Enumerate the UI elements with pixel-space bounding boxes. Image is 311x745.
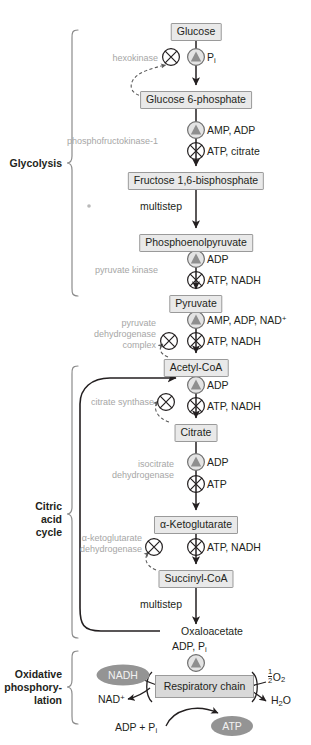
oxphos-adp-pi-subscript: i	[205, 645, 207, 654]
section-label-glycolysis-line-0: Glycolysis	[9, 157, 62, 169]
inhibition-symbol-hexokinase	[163, 49, 180, 66]
effector-label-adp-isocitrate-dh: ADP	[207, 457, 229, 468]
inhibition-symbol-citrate-synthase	[158, 394, 175, 411]
metabolite-succinyl-coa[interactable]: Succinyl-CoA	[158, 570, 233, 588]
multistep-label-citric-acid-cycle: multistep	[100, 599, 182, 610]
effector-label-pi: Pi	[207, 52, 216, 64]
enzyme-pyruvate-dehydrogenase-complex: pyruvate dehydrogenase complex	[30, 318, 156, 351]
metabolite-citrate[interactable]: Citrate	[175, 424, 218, 442]
effector-label-atp-nadh-akg-dh: ATP, NADH	[207, 542, 261, 553]
metabolite-fructose-1-6-bisphosphate[interactable]: Fructose 1,6-bisphosphate	[128, 172, 264, 190]
effector-label-adp-citrate-synthase: ADP	[207, 380, 229, 391]
cycle-loop-oxaloacetate-to-acetylcoa	[80, 378, 176, 631]
section-label-glycolysis: Glycolysis	[0, 157, 62, 170]
enzyme-citrate-synthase: citrate synthase	[30, 397, 154, 408]
activation-symbol-adp-isocitrate-dh	[188, 454, 205, 471]
brace-glycolysis	[67, 30, 78, 296]
activation-symbol-adp-citrate-synthase	[188, 377, 205, 394]
enzyme-hexokinase-line-0: hexokinase	[28, 53, 158, 64]
metabolite-alpha-ketoglutarate[interactable]: α-Ketoglutarate	[154, 516, 238, 534]
species-nad-text: NAD	[98, 693, 120, 705]
enzyme-akg-dh-line-1: dehydrogenase	[22, 544, 142, 555]
water-h: H	[271, 694, 279, 706]
respiratory-chain-box[interactable]: Respiratory chain	[155, 675, 254, 698]
effector-label-atp-nadh-pyruvate-kinase: ATP, NADH	[207, 275, 261, 286]
effector-label-atp-nadh-pdh: ATP, NADH	[207, 336, 261, 347]
section-label-oxphos-line-0: Oxidative	[0, 668, 62, 681]
decorative-dot	[87, 204, 91, 208]
brace-oxidative-phosphorylation	[67, 651, 78, 724]
oxygen-element: O	[273, 671, 281, 683]
inhibition-symbol-pdh-complex	[161, 333, 178, 350]
enzyme-isocitrate-dh-line-0: isocitrate	[40, 459, 174, 470]
effector-label-amp-adp: AMP, ADP	[207, 125, 255, 136]
enzyme-hexokinase: hexokinase	[28, 53, 158, 64]
oxygen-fraction-numerator: 1	[268, 668, 272, 676]
effector-pi-subscript: i	[214, 56, 216, 65]
enzyme-pdh-line-1: dehydrogenase	[30, 329, 156, 340]
enzyme-isocitrate-dehydrogenase: isocitrate dehydrogenase	[40, 459, 174, 481]
enzyme-akg-dh-line-0: α-ketoglutarate	[22, 533, 142, 544]
enzyme-isocitrate-dh-line-1: dehydrogenase	[40, 470, 174, 481]
oxygen-subscript: 2	[281, 675, 285, 684]
oxphos-adp-pi-label: ADP, Pi	[172, 641, 207, 653]
enzyme-alpha-ketoglutarate-dehydrogenase: α-ketoglutarate dehydrogenase	[22, 533, 142, 555]
diagram-artwork	[0, 0, 311, 745]
enzyme-citrate-synthase-line-0: citrate synthase	[30, 397, 154, 408]
activation-symbol-adp-pyruvate-kinase	[188, 251, 205, 268]
water-o: O	[283, 694, 291, 706]
effector-amp-adp-nad-text: AMP, ADP, NAD	[207, 314, 282, 326]
activation-symbol-amp-adp	[188, 122, 205, 139]
species-nadh[interactable]: NADH	[97, 665, 150, 686]
effector-label-atp-nadh-citrate-synthase: ATP, NADH	[207, 401, 261, 412]
activation-symbol-pi	[188, 49, 205, 66]
species-nad-superscript: +	[120, 693, 124, 702]
multistep-label-glycolysis: multistep	[100, 201, 182, 212]
metabolite-phosphoenolpyruvate[interactable]: Phosphoenolpyruvate	[139, 234, 253, 252]
enzyme-pfk1-line-0: phosphofructokinase-1	[14, 136, 158, 147]
enzyme-pdh-line-0: pyruvate	[30, 318, 156, 329]
enzyme-pyruvate-kinase-line-0: pyruvate kinase	[28, 265, 158, 276]
species-nad-plus: NAD+	[98, 694, 125, 705]
effector-label-amp-adp-nad: AMP, ADP, NAD+	[207, 315, 286, 326]
section-label-citric-line-0: Citric	[0, 500, 62, 513]
oxygen-fraction-denominator: 2	[268, 676, 272, 685]
species-adp-plus-pi: ADP + Pi	[115, 722, 157, 734]
effector-label-atp-citrate: ATP, citrate	[207, 146, 260, 157]
species-water: H2O	[271, 695, 291, 707]
enzyme-pdh-line-2: complex	[30, 340, 156, 351]
activation-symbol-adp-pi-oxphos	[188, 655, 205, 672]
effector-pi-text: P	[207, 51, 214, 63]
adp-plus-pi-subscript: i	[155, 726, 157, 735]
metabolite-glucose-6-phosphate[interactable]: Glucose 6-phosphate	[140, 91, 252, 109]
enzyme-pyruvate-kinase: pyruvate kinase	[28, 265, 158, 276]
section-label-oxphos-line-2: lation	[0, 694, 62, 707]
section-label-oxidative-phosphorylation: Oxidative phosphory- lation	[0, 668, 62, 708]
arrow-adp-pi-to-atp	[166, 708, 218, 726]
effector-nad-superscript: +	[282, 314, 286, 323]
oxphos-adp-pi-text: ADP, P	[172, 640, 205, 652]
species-oxygen: 12O2	[268, 668, 285, 684]
metabolite-acetyl-coa[interactable]: Acetyl-CoA	[164, 359, 229, 377]
metabolite-glucose[interactable]: Glucose	[171, 23, 222, 41]
oxygen-half-fraction: 12	[268, 668, 272, 684]
effector-label-adp-pyruvate-kinase: ADP	[207, 254, 229, 265]
adp-plus-pi-text: ADP + P	[115, 721, 155, 733]
effector-label-atp-isocitrate-dh: ATP	[207, 479, 227, 490]
pathway-diagram: Glycolysis Citric acid cycle Oxidative p…	[0, 0, 311, 745]
inhibition-symbol-akg-dehydrogenase	[146, 539, 163, 556]
activation-symbol-amp-adp-nad	[188, 312, 205, 329]
enzyme-phosphofructokinase-1: phosphofructokinase-1	[14, 136, 158, 147]
metabolite-pyruvate[interactable]: Pyruvate	[169, 295, 222, 313]
species-atp[interactable]: ATP	[211, 716, 253, 736]
section-label-oxphos-line-1: phosphory-	[0, 681, 62, 694]
section-label-citric-line-1: acid	[0, 513, 62, 526]
metabolite-oxaloacetate: Oxaloacetate	[181, 626, 243, 637]
